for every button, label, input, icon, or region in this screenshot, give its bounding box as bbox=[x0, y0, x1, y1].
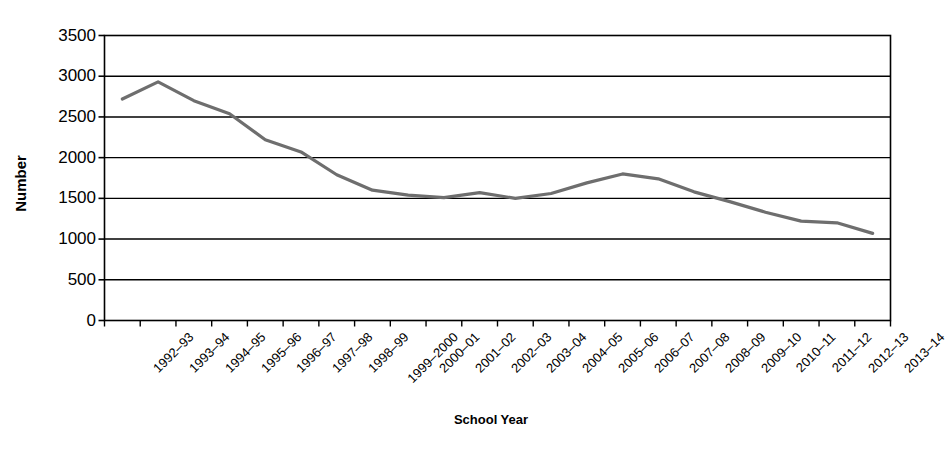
x-tick-marks bbox=[105, 321, 891, 327]
y-tick-marks bbox=[99, 36, 105, 321]
x-axis-title-text: School Year bbox=[382, 412, 528, 427]
plot-border bbox=[105, 36, 891, 321]
x-axis-title: School Year bbox=[0, 412, 910, 427]
gridlines bbox=[105, 76, 891, 280]
